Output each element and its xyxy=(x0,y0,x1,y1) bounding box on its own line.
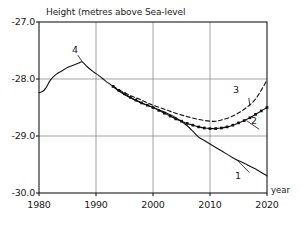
series-marker-2 xyxy=(192,124,195,127)
y-axis-tick-label-0: -27.0 xyxy=(2,17,35,27)
x-axis-tick-label-1: 1990 xyxy=(76,200,116,210)
series-marker-2 xyxy=(146,104,149,107)
line-chart-plot xyxy=(0,0,299,225)
y-axis-tick-label-1: -28.0 xyxy=(2,74,35,84)
series-marker-2 xyxy=(140,102,143,105)
series-marker-2 xyxy=(174,118,177,121)
series-marker-2 xyxy=(169,115,172,118)
x-axis-label: year xyxy=(271,186,290,195)
series-marker-2 xyxy=(231,124,234,127)
series-marker-2 xyxy=(220,127,223,130)
series-marker-2 xyxy=(157,109,160,112)
series-label-2: 2 xyxy=(251,116,257,126)
series-marker-2 xyxy=(260,110,263,113)
y-axis-tick-label-2: -29.0 xyxy=(2,131,35,141)
series-marker-2 xyxy=(197,126,200,129)
annotation-leader-4 xyxy=(78,55,82,62)
series-line-4 xyxy=(39,62,113,93)
series-marker-2 xyxy=(186,122,189,125)
series-marker-2 xyxy=(214,127,217,130)
x-axis-tick-label-3: 2010 xyxy=(190,200,230,210)
x-axis-tick-label-0: 1980 xyxy=(19,200,59,210)
series-marker-2 xyxy=(243,119,246,122)
series-label-1: 1 xyxy=(235,171,241,181)
y-axis-tick-label-3: -30.0 xyxy=(2,188,35,198)
series-line-2 xyxy=(113,86,267,128)
series-marker-2 xyxy=(152,106,155,109)
series-marker-2 xyxy=(163,112,166,115)
series-marker-2 xyxy=(180,120,183,123)
series-marker-2 xyxy=(203,127,206,130)
series-marker-2 xyxy=(209,127,212,130)
chart-container: Height (metres above Sea-level -27.0 -28… xyxy=(0,0,299,225)
x-axis-tick-label-2: 2000 xyxy=(133,200,173,210)
series-marker-2 xyxy=(237,122,240,125)
series-marker-2 xyxy=(266,106,269,109)
series-marker-2 xyxy=(135,99,138,102)
x-axis-tick-label-4: 2020 xyxy=(247,200,287,210)
series-label-4: 4 xyxy=(72,45,78,55)
series-label-3: 3 xyxy=(233,85,239,95)
chart-title: Height (metres above Sea-level xyxy=(46,8,185,17)
series-marker-2 xyxy=(226,126,229,129)
